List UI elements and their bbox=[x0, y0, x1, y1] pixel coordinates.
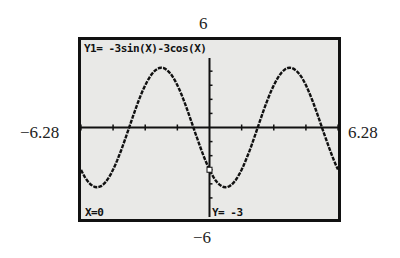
trace-cursor bbox=[207, 167, 212, 172]
x-readout: X=0 bbox=[85, 207, 103, 218]
xmin-label: −6.28 bbox=[20, 124, 59, 141]
ymax-label: 6 bbox=[199, 15, 208, 32]
xmax-label: 6.28 bbox=[348, 124, 378, 141]
ymin-label: −6 bbox=[193, 229, 211, 246]
calculator-graph-screen: Y1= -3sin(X)-3cos(X) X=0 Y= -3 bbox=[78, 37, 341, 222]
equation-label: Y1= -3sin(X)-3cos(X) bbox=[84, 43, 206, 54]
graph-plot bbox=[81, 40, 338, 219]
y-readout: Y= -3 bbox=[212, 207, 243, 218]
